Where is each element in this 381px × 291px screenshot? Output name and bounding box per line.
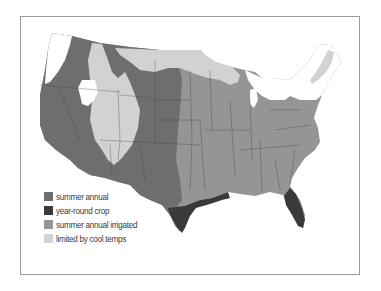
legend-swatch (44, 192, 53, 201)
legend-swatch (44, 206, 53, 215)
us-crop-zone-map (0, 0, 381, 291)
legend-label: limited by cool temps (56, 233, 126, 244)
legend-label: year-round crop (56, 205, 109, 216)
legend-swatch (44, 220, 53, 229)
legend-label: summer annual irrigated (56, 219, 137, 230)
region-year-round-florida (284, 188, 305, 228)
legend: summer annual year-round crop summer ann… (44, 189, 152, 245)
legend-item-year-round-crop: year-round crop (44, 203, 152, 217)
legend-label: summer annual (56, 191, 108, 202)
legend-item-summer-annual-irrigated: summer annual irrigated (44, 217, 152, 231)
legend-item-summer-annual: summer annual (44, 189, 152, 203)
legend-swatch (44, 234, 53, 243)
region-none-northeast (245, 44, 341, 100)
legend-item-limited-by-cool-temps: limited by cool temps (44, 231, 152, 245)
